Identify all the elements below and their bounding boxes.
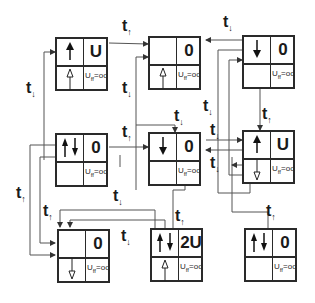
state-box: 0 Uff=oo — [148, 132, 201, 186]
hopping-label: t↑ — [262, 106, 272, 124]
spin-up-down-arrows-icon — [58, 136, 82, 160]
hollow-down-arrow-icon — [60, 258, 84, 282]
state-box: 0 Uff=oo — [57, 229, 110, 283]
spin-down-arrow-icon — [151, 135, 175, 159]
energy-label: U — [272, 133, 294, 157]
hollow-up-arrow-icon — [153, 257, 177, 281]
spin-up-down-arrows-icon — [153, 231, 177, 255]
energy-label: 0 — [178, 135, 200, 159]
uff-label: Uff=oo — [274, 260, 297, 280]
hopping-label: t↓ — [210, 155, 220, 173]
uff-label: Uff=oo — [178, 68, 201, 88]
state-box: U Uff=oo — [55, 37, 108, 91]
uff-label: Uff=oo — [178, 164, 201, 184]
hollow-down-arrow-icon — [245, 159, 269, 183]
energy-label: 0 — [85, 136, 107, 160]
uff-label: Uff=oo — [272, 162, 295, 182]
state-box: 0 Uff=oo — [148, 36, 201, 90]
uff-label: Uff=oo — [85, 69, 108, 89]
hopping-label: t↓ — [210, 122, 220, 140]
state-box: 0 Uff=oo — [242, 35, 295, 89]
hopping-label: t↓ — [113, 188, 123, 206]
uff-label: Uff=oo — [180, 260, 203, 280]
spin-up-down-arrows-icon — [247, 231, 271, 255]
energy-label: 0 — [274, 231, 296, 255]
hopping-label: t↑ — [43, 203, 53, 221]
hopping-label: t↑ — [122, 18, 132, 36]
energy-label: 2U — [180, 231, 202, 255]
uff-label: Uff=oo — [85, 165, 108, 185]
uff-label: Uff=oo — [87, 261, 110, 281]
hopping-label: t↑ — [266, 203, 276, 221]
energy-label: 0 — [272, 38, 294, 62]
hopping-label: t↑ — [175, 208, 185, 226]
hopping-label: t↓ — [174, 108, 184, 126]
spin-up-arrow-icon — [245, 133, 269, 157]
state-box: 2U Uff=oo — [150, 228, 203, 282]
state-box: U Uff=oo — [242, 130, 295, 184]
energy-label: U — [85, 40, 107, 64]
hopping-label: t↓ — [223, 14, 233, 32]
energy-label: 0 — [178, 39, 200, 63]
energy-label: 0 — [87, 232, 109, 256]
hopping-label: t↓ — [122, 80, 132, 98]
hollow-up-arrow-icon — [151, 65, 175, 89]
spin-down-arrow-icon — [245, 38, 269, 62]
hollow-up-arrow-icon — [58, 66, 82, 90]
uff-label: Uff=oo — [272, 67, 295, 87]
hopping-diagram: U Uff=oo 0 Uff=oo 0 Uff=oo 0 Uff=oo — [0, 0, 315, 303]
hopping-label: t↓ — [26, 80, 36, 98]
spin-up-arrow-icon — [58, 40, 82, 64]
hopping-label: t↑ — [16, 185, 26, 203]
hopping-label: t↓ — [203, 98, 213, 116]
state-box: 0 Uff=oo — [55, 133, 108, 187]
hopping-label: t↑ — [122, 124, 132, 142]
state-box: 0 Uff=oo — [244, 228, 297, 282]
hopping-label: t↓ — [121, 228, 131, 246]
